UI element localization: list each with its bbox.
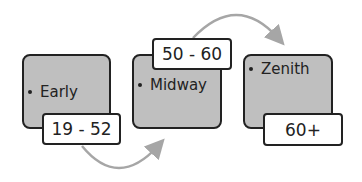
stage-early-range-tag: 19 - 52 [42,113,121,145]
stage-label: Midway [150,76,207,94]
stage-label: Zenith [261,60,310,78]
arrow-early-to-midway [82,146,158,168]
process-diagram: Early 19 - 52 Midway 50 - 60 Zenith 60+ [0,0,362,182]
bullet-icon [28,90,32,94]
stage-zenith-range-tag: 60+ [263,113,343,146]
stage-zenith-bullet: Zenith [249,60,310,78]
bullet-icon [138,83,142,87]
bullet-icon [249,67,253,71]
stage-midway-range-tag: 50 - 60 [152,38,232,70]
stage-early-bullet: Early [28,83,78,101]
stage-label: Early [40,83,78,101]
stage-midway-bullet: Midway [138,76,207,94]
arrow-midway-to-zenith [193,15,278,38]
